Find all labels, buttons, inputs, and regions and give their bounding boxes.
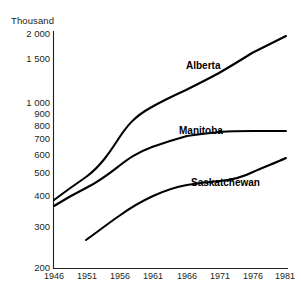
- series-line-alberta: [54, 36, 286, 200]
- series-label-manitoba: Manitoba: [179, 126, 223, 136]
- x-tick-1946: 1946: [37, 272, 71, 281]
- series-label-alberta: Alberta: [186, 61, 220, 71]
- x-tick-1981: 1981: [268, 272, 301, 281]
- x-tick-1956: 1956: [103, 272, 137, 281]
- x-tick-1951: 1951: [70, 272, 104, 281]
- plot-area: [0, 0, 301, 297]
- chart-axes: [54, 31, 289, 269]
- series-line-manitoba: [54, 131, 286, 206]
- x-tick-1971: 1971: [203, 272, 237, 281]
- x-tick-1976: 1976: [236, 272, 270, 281]
- x-tick-1966: 1966: [170, 272, 204, 281]
- series-label-saskatchewan: Saskatchewan: [191, 178, 260, 188]
- series-line-saskatchewan: [86, 158, 286, 240]
- x-tick-1961: 1961: [136, 272, 170, 281]
- population-line-chart: Thousand 2 000 1 500 1 000 900 800 700 6…: [0, 0, 301, 297]
